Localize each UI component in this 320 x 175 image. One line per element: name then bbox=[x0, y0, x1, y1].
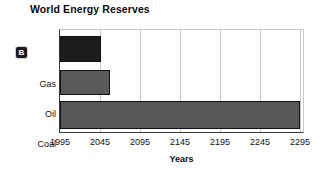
bar-oil bbox=[60, 70, 110, 95]
category-label-gas: Gas bbox=[4, 79, 56, 89]
xtick-1995: 1995 bbox=[38, 137, 82, 147]
bar-gas bbox=[60, 36, 101, 62]
chart-title: World Energy Reserves bbox=[30, 3, 150, 15]
category-label-oil: Oil bbox=[4, 109, 56, 119]
xtick-2045: 2045 bbox=[78, 137, 122, 147]
gridline-2295 bbox=[300, 30, 301, 132]
chart-figure: World Energy Reserves B Gas Oil Coal 199… bbox=[0, 0, 320, 175]
xtick-2295: 2295 bbox=[278, 137, 320, 147]
x-axis-tick-labels: 1995 2045 2095 2145 2195 2245 2295 bbox=[0, 137, 320, 151]
xtick-2095: 2095 bbox=[118, 137, 162, 147]
bar-coal bbox=[60, 101, 300, 129]
xtick-2145: 2145 bbox=[158, 137, 202, 147]
plot-area bbox=[59, 29, 304, 133]
x-axis-title: Years bbox=[59, 154, 304, 164]
category-axis-labels: Gas Oil Coal bbox=[0, 29, 56, 133]
xtick-2195: 2195 bbox=[198, 137, 242, 147]
xtick-2245: 2245 bbox=[238, 137, 282, 147]
